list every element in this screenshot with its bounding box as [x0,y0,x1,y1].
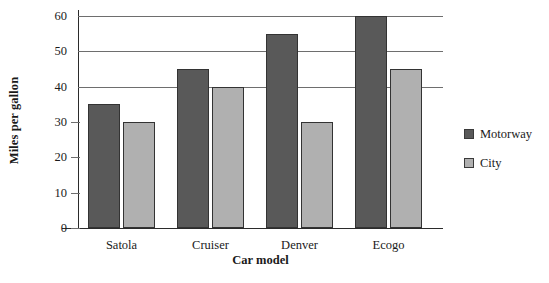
tick-mark [71,122,80,123]
y-tick-label: 40 [55,79,68,94]
y-tick-label: 10 [55,185,68,200]
tick-mark [71,228,80,229]
bar-satola-city [123,122,155,228]
city-swatch [464,158,474,168]
y-axis-title: Miles per gallon [2,0,28,240]
x-tick-label-cruiser: Cruiser [192,238,229,253]
y-tick-label: 60 [55,9,68,24]
legend-item-motorway[interactable]: Motorway [464,127,532,141]
x-axis-title: Car model [78,253,443,268]
legend-label: Motorway [480,127,532,142]
plot-area: 0102030405060 SatolaCruiserDenverEcogo [78,16,443,228]
y-tick-label: 20 [55,150,68,165]
tick-mark [71,157,80,158]
chart-legend: MotorwayCity [464,127,532,185]
y-tick-label: 30 [55,115,68,130]
bar-cruiser-motorway [177,69,209,228]
bar-chart-figure: Miles per gallon 0102030405060 SatolaCru… [0,0,549,283]
y-axis-line [78,10,79,228]
bar-denver-motorway [266,34,298,228]
gridline [78,87,443,88]
y-tick-label: 0 [61,221,67,236]
y-tick-label: 50 [55,44,68,59]
bar-satola-motorway [88,104,120,228]
gridline [78,51,443,52]
motorway-swatch [464,129,474,139]
bar-ecogo-motorway [355,16,387,228]
y-axis-title-text: Miles per gallon [8,76,23,163]
x-tick-label-satola: Satola [106,238,137,253]
gridline [78,16,443,17]
bar-cruiser-city [212,87,244,228]
x-tick-label-denver: Denver [281,238,318,253]
x-axis-line [62,228,443,229]
x-tick-label-ecogo: Ecogo [373,238,405,253]
bar-denver-city [301,122,333,228]
legend-label: City [480,156,502,171]
x-axis-title-text: Car model [232,253,288,267]
tick-mark [71,193,80,194]
bar-ecogo-city [390,69,422,228]
legend-item-city[interactable]: City [464,156,532,170]
